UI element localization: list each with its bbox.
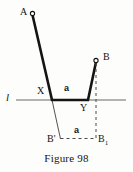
label-point-y: Y [80, 103, 87, 113]
point-marker-a-icon [30, 11, 34, 15]
figure-98-illustration: l A B X Y B' B1 a a Figure 98 [0, 0, 133, 172]
label-point-a: A [20, 7, 27, 17]
label-segment-a-bottom: a [74, 126, 79, 135]
figure-caption: Figure 98 [0, 152, 133, 164]
label-point-x: X [37, 86, 44, 96]
label-point-b-one-subscript: 1 [105, 139, 109, 147]
label-point-b-prime: B' [47, 134, 55, 144]
label-segment-a-top: a [64, 84, 69, 93]
label-line-l: l [6, 92, 9, 103]
label-point-b: B [103, 52, 110, 62]
label-point-b-one: B1 [98, 134, 108, 147]
label-point-b-one-base: B [98, 133, 105, 144]
point-marker-b-icon [94, 58, 98, 62]
